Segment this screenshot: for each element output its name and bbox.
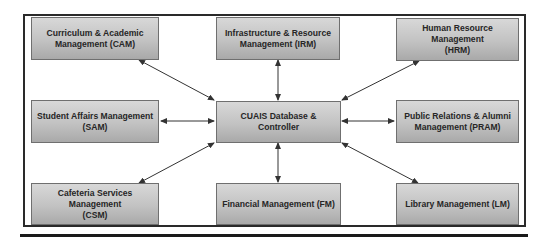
module-label-line1: Cafeteria Services Management	[36, 188, 154, 210]
module-label-line1: Infrastructure & Resource	[225, 28, 331, 39]
module-label-line1: Library Management (LM)	[405, 199, 510, 210]
module-fm: Financial Management (FM)	[216, 183, 341, 225]
module-irm: Infrastructure & ResourceManagement (IRM…	[216, 17, 340, 60]
module-lm: Library Management (LM)	[396, 183, 519, 225]
module-label-line2: Management (PRAM)	[404, 122, 511, 133]
center-label: CUAIS Database & Controller	[221, 111, 336, 133]
module-csm: Cafeteria Services Management(CSM)	[31, 183, 159, 225]
module-cam: Curriculum & AcademicManagement (CAM)	[31, 17, 159, 60]
center-controller: CUAIS Database & Controller	[216, 101, 341, 143]
bottom-rule	[20, 234, 528, 237]
module-label-line2: (HRM)	[401, 45, 514, 56]
module-label-line1: Curriculum & Academic	[46, 28, 143, 39]
module-label-line2: Management (CAM)	[46, 39, 143, 50]
module-label-line1: Public Relations & Alumni	[404, 111, 511, 122]
module-label-line2: (SAM)	[37, 122, 153, 133]
module-label-line1: Financial Management (FM)	[222, 199, 335, 210]
module-label-line1: Human Resource Management	[401, 23, 514, 45]
module-label-line2: (CSM)	[36, 210, 154, 221]
module-label-line2: Management (IRM)	[225, 39, 331, 50]
module-pram: Public Relations & AlumniManagement (PRA…	[396, 100, 519, 143]
module-label-line1: Student Affairs Management	[37, 111, 153, 122]
module-hrm: Human Resource Management(HRM)	[396, 18, 519, 61]
module-sam: Student Affairs Management(SAM)	[31, 100, 159, 143]
